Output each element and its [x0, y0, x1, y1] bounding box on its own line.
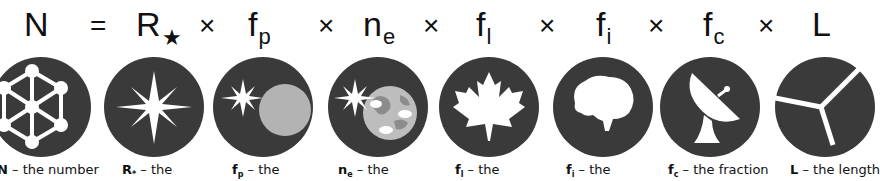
- term-l: L: [812, 4, 831, 44]
- term-ne: ne: [363, 4, 395, 49]
- term-base: n: [363, 5, 382, 43]
- label-fi: fi – the: [566, 161, 611, 181]
- term-fl: fl: [476, 4, 491, 49]
- label-symbol: N: [0, 162, 8, 177]
- times-sign: ×: [199, 6, 215, 46]
- term-base: R: [136, 5, 161, 43]
- term-sub: i: [606, 24, 611, 49]
- term-sub: c: [713, 24, 724, 49]
- equals-sign: =: [90, 6, 106, 46]
- times-sign: ×: [758, 6, 774, 46]
- term-sub: p: [258, 24, 270, 49]
- term-fc: fc: [703, 4, 724, 49]
- label-text: – the: [136, 162, 172, 177]
- term-base: f: [476, 5, 485, 43]
- label-r-star: R* – the: [122, 161, 172, 181]
- label-symbol: f: [232, 162, 238, 177]
- term-sub: l: [486, 24, 491, 49]
- term-fp: fp: [248, 4, 271, 49]
- label-symbol: R: [122, 162, 132, 177]
- label-fl: fl – the: [455, 161, 500, 181]
- label-sub: c: [674, 170, 679, 179]
- term-sub: e: [383, 24, 395, 49]
- maple-leaf-icon: [439, 57, 539, 157]
- times-sign: ×: [318, 6, 334, 46]
- label-text: – the fraction: [678, 162, 768, 177]
- label-text: – the: [353, 162, 389, 177]
- times-sign: ×: [423, 6, 439, 46]
- label-text: – the length: [798, 162, 880, 177]
- term-base: f: [248, 5, 257, 43]
- brain-icon: [553, 57, 653, 157]
- times-sign: ×: [539, 6, 555, 46]
- network-icon: [0, 57, 91, 157]
- term-base: L: [812, 5, 831, 43]
- label-text: – the: [243, 162, 279, 177]
- label-sub: e: [347, 170, 352, 179]
- label-l: L – the length: [790, 161, 880, 179]
- term-base: f: [703, 5, 712, 43]
- term-r-star: R★: [136, 4, 182, 49]
- label-symbol: f: [455, 162, 461, 177]
- label-n: N – the number: [0, 161, 99, 179]
- label-fp: fp – the: [232, 161, 280, 181]
- label-symbol: f: [566, 162, 572, 177]
- term-sub: ★: [162, 25, 182, 50]
- clock-icon: [775, 57, 875, 157]
- label-text: – the: [574, 162, 610, 177]
- label-sub: l: [461, 170, 464, 179]
- term-fi: fi: [596, 4, 611, 49]
- times-sign: ×: [648, 6, 664, 46]
- star-icon: [104, 57, 204, 157]
- star-planet-icon: [213, 57, 313, 157]
- radio-dish-icon: [660, 57, 760, 157]
- label-fc: fc – the fraction: [668, 161, 769, 181]
- equation-lhs: N: [24, 4, 49, 44]
- label-sub: i: [572, 170, 575, 179]
- label-symbol: n: [338, 162, 347, 177]
- label-symbol: f: [668, 162, 674, 177]
- label-sub: *: [132, 170, 136, 179]
- label-sub: p: [238, 170, 244, 179]
- star-earth-icon: [328, 57, 428, 157]
- label-text: – the number: [8, 162, 99, 177]
- label-text: – the: [463, 162, 499, 177]
- label-ne: ne – the: [338, 161, 389, 181]
- term-base: f: [596, 5, 605, 43]
